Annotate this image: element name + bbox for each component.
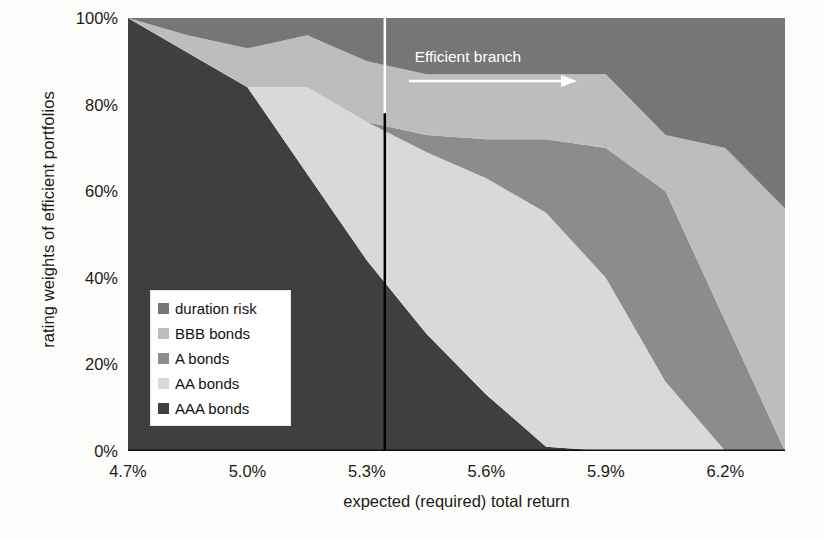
x-axis-tick-label: 6.2% [680, 462, 770, 481]
legend-swatch-icon [158, 328, 169, 339]
legend-swatch-icon [158, 403, 169, 414]
y-axis-tick-label: 20% [48, 355, 118, 374]
efficient-branch-arrow [407, 74, 577, 88]
chart-canvas: rating weights of efficient portfolios 1… [0, 0, 824, 540]
legend-item: A bonds [158, 346, 284, 371]
legend-item-label: A bonds [175, 351, 229, 366]
legend-swatch-icon [158, 353, 169, 364]
legend-item: BBB bonds [158, 321, 284, 346]
legend-swatch-icon [158, 378, 169, 389]
legend-swatch-icon [158, 303, 169, 314]
legend-item-label: AAA bonds [175, 401, 249, 416]
x-axis-title: expected (required) total return [128, 492, 785, 511]
x-axis-tick-label: 5.6% [441, 462, 531, 481]
y-axis-tick-label: 0% [48, 442, 118, 461]
legend-item-label: duration risk [175, 301, 257, 316]
legend-item: AAA bonds [158, 396, 284, 421]
legend-item-label: BBB bonds [175, 326, 250, 341]
y-axis-tick-label: 40% [48, 268, 118, 287]
x-axis-tick-label: 5.3% [322, 462, 412, 481]
x-axis-tick-label: 5.0% [202, 462, 292, 481]
x-axis-tick-label: 4.7% [83, 462, 173, 481]
arrow-head [561, 75, 577, 87]
legend-item: duration risk [158, 296, 284, 321]
legend-item: AA bonds [158, 371, 284, 396]
y-axis-tick-label: 80% [48, 95, 118, 114]
legend: duration riskBBB bondsA bondsAA bondsAAA… [150, 290, 291, 426]
efficient-branch-label: Efficient branch [415, 48, 522, 66]
y-axis-ticks: 100%80%60%40%20%0% [44, 0, 118, 540]
y-axis-tick-label: 60% [48, 182, 118, 201]
y-axis-tick-label: 100% [48, 9, 118, 28]
legend-item-label: AA bonds [175, 376, 239, 391]
x-axis-tick-label: 5.9% [561, 462, 651, 481]
